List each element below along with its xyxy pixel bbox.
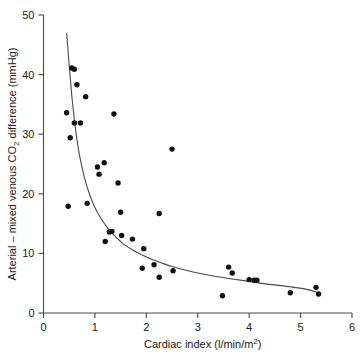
y-axis-title: Arterial – mixed venous CO2 difference (… [6,48,21,281]
x-axis-ticks: 0123456 [40,313,355,333]
data-point [118,210,123,215]
data-point [288,290,293,295]
x-tick-label: 1 [92,321,98,333]
data-point [96,171,101,176]
data-point [109,229,114,234]
data-point [254,278,259,283]
data-point [95,164,100,169]
data-point [119,233,124,238]
y-tick-label: 40 [22,69,34,81]
data-point [226,264,231,269]
data-points-group [64,65,321,298]
data-point [115,180,120,185]
data-point [156,275,161,280]
data-point [103,239,108,244]
data-point [64,110,69,115]
data-point [316,291,321,296]
x-axis-title: Cardiac index (l/min/m2) [144,337,262,350]
data-point [313,285,318,290]
data-point [230,270,235,275]
data-point [170,268,175,273]
chart-canvas: 0123456 01020304050 Cardiac index (l/min… [0,0,364,355]
data-point [246,277,251,282]
data-point [85,201,90,206]
data-point [151,262,156,267]
y-axis-ticks: 01020304050 [22,9,43,319]
x-tick-label: 2 [143,321,149,333]
data-point [141,246,146,251]
data-point [111,111,116,116]
data-point [169,146,174,151]
data-point [65,204,70,209]
x-tick-label: 5 [298,321,304,333]
data-point [74,82,79,87]
x-tick-label: 4 [246,321,252,333]
data-point [78,120,83,125]
data-point [130,236,135,241]
data-point [156,211,161,216]
data-point [83,94,88,99]
data-point [101,160,106,165]
y-tick-label: 0 [28,307,34,319]
data-point [68,135,73,140]
y-tick-label: 10 [22,247,34,259]
x-tick-label: 0 [40,321,46,333]
data-point [72,67,77,72]
y-tick-label: 30 [22,128,34,140]
data-point [140,266,145,271]
y-tick-label: 20 [22,188,34,200]
x-tick-label: 3 [195,321,201,333]
y-tick-label: 50 [22,9,34,21]
data-point [220,293,225,298]
x-tick-label: 6 [349,321,355,333]
data-point [72,120,77,125]
scatter-chart-figure: 0123456 01020304050 Cardiac index (l/min… [0,0,364,355]
